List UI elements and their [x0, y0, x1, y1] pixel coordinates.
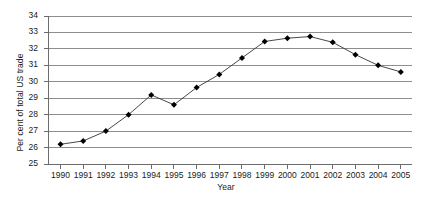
x-tick-mark: [105, 165, 106, 169]
x-tick-label: 2002: [323, 170, 342, 181]
x-tick-label: 1991: [74, 170, 93, 181]
x-tick-label: 1997: [210, 170, 229, 181]
x-tick-mark: [83, 165, 84, 169]
x-tick-mark: [264, 165, 265, 169]
data-point-marker: [352, 52, 358, 58]
data-point-marker: [307, 34, 313, 40]
x-axis-title: Year: [40, 182, 412, 192]
data-point-marker: [284, 35, 290, 41]
data-point-marker: [330, 39, 336, 45]
x-tick-mark: [173, 165, 174, 169]
x-tick-mark: [196, 165, 197, 169]
y-tick-label: 28: [29, 110, 38, 119]
x-tick-mark: [400, 165, 401, 169]
y-tick-label: 33: [29, 27, 38, 36]
y-tick-label: 25: [29, 159, 38, 168]
x-tick-label: 1992: [96, 170, 115, 181]
x-tick-label: 1998: [233, 170, 252, 181]
y-tick-label: 27: [29, 126, 38, 135]
series-line: [48, 16, 411, 164]
y-tick-label: 34: [29, 11, 38, 20]
x-tick-label: 1996: [187, 170, 206, 181]
data-point-marker: [216, 71, 222, 77]
y-tick-label: 26: [29, 143, 38, 152]
data-point-marker: [262, 38, 268, 44]
data-point-marker: [57, 141, 63, 147]
data-point-marker: [239, 55, 245, 61]
y-tick-label: 30: [29, 77, 38, 86]
data-point-marker: [375, 62, 381, 68]
x-tick-mark: [151, 165, 152, 169]
x-tick-label: 1994: [142, 170, 161, 181]
x-tick-label: 2005: [391, 170, 410, 181]
y-axis-tick-labels: 25262728293031323334: [0, 16, 48, 164]
y-tick-label: 31: [29, 60, 38, 69]
x-tick-label: 2004: [369, 170, 388, 181]
line-chart: Per cent of total US trade 2526272829303…: [0, 0, 429, 205]
x-tick-label: 2000: [278, 170, 297, 181]
x-tick-label: 1990: [51, 170, 70, 181]
x-tick-mark: [378, 165, 379, 169]
x-tick-mark: [287, 165, 288, 169]
x-tick-mark: [219, 165, 220, 169]
data-point-marker: [398, 69, 404, 75]
x-tick-mark: [241, 165, 242, 169]
y-tick-label: 32: [29, 44, 38, 53]
data-point-marker: [103, 128, 109, 134]
data-point-marker: [80, 138, 86, 144]
x-tick-label: 1993: [119, 170, 138, 181]
x-tick-mark: [355, 165, 356, 169]
x-tick-mark: [128, 165, 129, 169]
x-tick-label: 2001: [301, 170, 320, 181]
x-tick-mark: [332, 165, 333, 169]
series-polyline: [60, 37, 400, 145]
x-tick-label: 1995: [164, 170, 183, 181]
x-tick-label: 2003: [346, 170, 365, 181]
y-tick-label: 29: [29, 93, 38, 102]
x-tick-label: 1999: [255, 170, 274, 181]
x-tick-mark: [60, 165, 61, 169]
x-tick-mark: [310, 165, 311, 169]
x-axis-tick-labels: 1990199119921993199419951996199719981999…: [48, 170, 412, 182]
